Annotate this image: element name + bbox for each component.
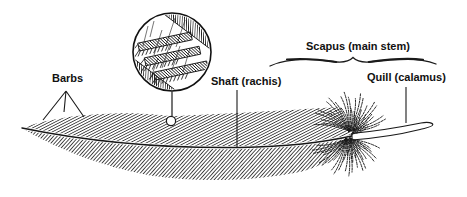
label-shaft-rachis: Shaft (rachis) [211,75,281,87]
label-scapus: Scapus (main stem) [306,40,410,52]
label-barbs: Barbs [52,72,83,84]
feather-illustration [0,0,467,197]
barbs-pointer-lines [43,91,84,120]
label-quill-calamus: Quill (calamus) [367,71,446,83]
feather-vane [22,107,354,180]
barb-callout-circle [166,116,175,125]
diagram-canvas: Barbs Shaft (rachis) Scapus (main stem) … [0,0,467,197]
magnifier-inset [121,3,224,102]
